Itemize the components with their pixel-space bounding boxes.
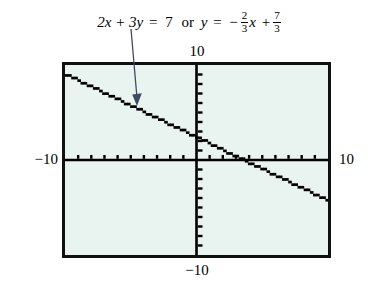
axis-label-bottom: −10 <box>172 263 222 278</box>
equals-sign-2: = <box>211 14 223 30</box>
plot-area <box>65 65 328 255</box>
equation-standard-rhs: 7 <box>163 14 175 30</box>
slope-fraction: 23 <box>241 10 249 35</box>
equals-sign-1: = <box>147 14 159 30</box>
equation-standard-lhs: 2x + 3y <box>97 14 143 30</box>
intercept-denominator: 3 <box>273 22 281 35</box>
intercept-fraction: 73 <box>273 10 281 35</box>
slope-numerator: 2 <box>241 10 249 22</box>
slope-sign: − <box>227 14 239 30</box>
slope-variable: x <box>249 14 256 30</box>
axis-label-left: −10 <box>14 152 58 167</box>
y-variable: y <box>201 14 208 30</box>
plus-sign: + <box>260 14 272 30</box>
slope-denominator: 3 <box>241 22 249 35</box>
axis-label-right: 10 <box>339 152 375 167</box>
axis-label-top: 10 <box>172 44 222 59</box>
connector-or: or <box>178 14 197 30</box>
equation-caption: 2x + 3y = 7 or y = −23x +73 <box>0 10 379 35</box>
intercept-numerator: 7 <box>273 10 281 22</box>
calculator-screen <box>62 62 331 258</box>
